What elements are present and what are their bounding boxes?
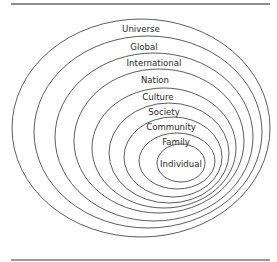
label-universe: Universe — [122, 24, 160, 34]
label-international: International — [127, 58, 182, 68]
label-community: Community — [146, 122, 196, 132]
ellipse-culture — [92, 88, 236, 208]
nested-circles-diagram: Universe Global International Nation Cul… — [0, 0, 277, 262]
level-culture: Culture — [92, 88, 236, 208]
label-nation: Nation — [141, 75, 169, 85]
label-global: Global — [130, 42, 157, 52]
label-society: Society — [148, 107, 180, 117]
level-individual: Individual — [157, 144, 205, 182]
level-community: Community — [124, 117, 222, 197]
label-family: Family — [162, 137, 190, 147]
label-culture: Culture — [142, 92, 173, 102]
bottom-rule — [11, 259, 270, 261]
label-individual: Individual — [160, 159, 202, 169]
